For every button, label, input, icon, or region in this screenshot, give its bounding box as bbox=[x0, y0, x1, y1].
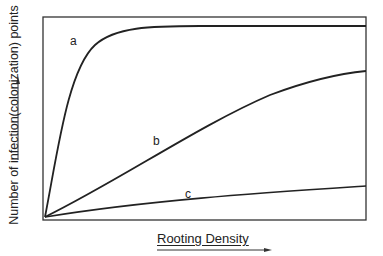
chart-canvas bbox=[0, 0, 383, 256]
x-axis-label: Rooting Density bbox=[157, 231, 249, 246]
curve-a bbox=[45, 26, 366, 217]
y-axis-label: Number of infection(colonization) points bbox=[2, 0, 26, 230]
curve-b-label: b bbox=[153, 134, 160, 148]
curve-b bbox=[45, 71, 366, 217]
curve-c-label: c bbox=[185, 187, 191, 201]
curve-a-label: a bbox=[70, 34, 77, 48]
x-axis-arrowhead-icon bbox=[264, 248, 272, 252]
